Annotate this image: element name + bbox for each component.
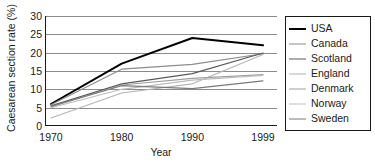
x-tick-label: 1990	[181, 132, 204, 143]
chart-legend: USACanadaScotlandEnglandDenmarkNorwaySwe…	[285, 16, 371, 131]
chart-figure: Caesarean section rate (%) 051015202530 …	[0, 0, 375, 167]
series-line-scotland	[51, 53, 263, 106]
legend-label: Canada	[311, 38, 348, 49]
legend-item-usa[interactable]: USA	[289, 21, 367, 36]
y-tick-label: 25	[30, 29, 42, 40]
y-axis-tick-labels: 051015202530	[20, 10, 42, 132]
y-tick-label: 15	[30, 66, 42, 77]
y-tick-label: 0	[36, 121, 42, 132]
legend-label: Sweden	[311, 113, 349, 124]
legend-item-canada[interactable]: Canada	[289, 36, 367, 51]
chart-svg	[45, 16, 277, 126]
y-tick-label: 5	[36, 102, 42, 113]
legend-label: Scotland	[311, 53, 352, 64]
legend-item-sweden[interactable]: Sweden	[289, 111, 367, 126]
y-tick-label: 30	[30, 11, 42, 22]
legend-line-swatch	[289, 54, 306, 64]
gridlines	[45, 17, 277, 109]
legend-item-scotland[interactable]: Scotland	[289, 51, 367, 66]
legend-line-swatch	[289, 69, 306, 79]
series-line-norway	[51, 75, 263, 107]
y-axis-title: Caesarean section rate (%)	[0, 0, 22, 135]
legend-label: Denmark	[311, 83, 354, 94]
x-axis-title: Year	[45, 146, 277, 158]
legend-label: England	[311, 68, 350, 79]
x-tick-label: 1999	[251, 132, 274, 143]
data-lines	[51, 38, 263, 118]
legend-item-england[interactable]: England	[289, 66, 367, 81]
y-axis-title-text: Caesarean section rate (%)	[5, 4, 17, 132]
legend-line-swatch	[289, 114, 306, 124]
y-tick-label: 10	[30, 84, 42, 95]
plot-area	[45, 16, 277, 126]
series-line-usa	[51, 38, 263, 104]
legend-item-denmark[interactable]: Denmark	[289, 81, 367, 96]
x-axis-tick-labels: 1970198019901999	[45, 130, 277, 146]
x-tick-label: 1980	[110, 132, 133, 143]
legend-item-norway[interactable]: Norway	[289, 96, 367, 111]
axis-frame	[45, 16, 277, 126]
legend-label: Norway	[311, 98, 347, 109]
legend-line-swatch	[289, 39, 306, 49]
x-tick-label: 1970	[39, 132, 62, 143]
legend-line-swatch	[289, 99, 306, 109]
y-tick-label: 20	[30, 47, 42, 58]
legend-line-swatch	[289, 84, 306, 94]
legend-line-swatch	[289, 24, 306, 34]
series-line-denmark	[51, 75, 263, 107]
legend-label: USA	[311, 23, 333, 34]
